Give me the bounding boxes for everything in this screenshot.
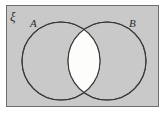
set-a-label: A xyxy=(29,17,37,29)
venn-diagram-canvas: ξ A B xyxy=(0,0,168,116)
universal-set-label: ξ xyxy=(10,9,16,24)
venn-diagram-figure: ξ A B xyxy=(0,0,168,116)
set-b-label: B xyxy=(129,17,136,29)
